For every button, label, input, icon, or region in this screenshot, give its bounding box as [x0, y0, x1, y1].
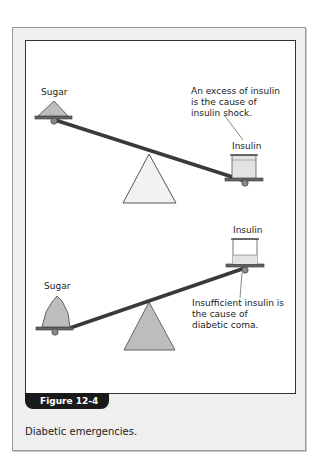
figure-number-tab: Figure 12-4: [25, 393, 109, 409]
sugar-pile-icon: [36, 296, 73, 335]
diabetic-coma-note: Insufficient insulin is the cause of dia…: [192, 298, 284, 331]
bottom-seesaw: [36, 239, 264, 350]
fulcrum-top: [123, 154, 176, 203]
insulin-label-bottom: Insulin: [233, 225, 262, 236]
sugar-label-top: Sugar: [41, 87, 67, 98]
fulcrum-bottom: [124, 302, 175, 350]
insulin-beaker-icon: [226, 239, 264, 273]
figure-caption: Diabetic emergencies.: [25, 426, 137, 437]
insulin-beaker-icon: [225, 155, 263, 186]
insulin-label-top: Insulin: [232, 141, 261, 152]
callout-line-bottom: [240, 273, 242, 298]
insulin-shock-note: An excess of insulin is the cause of ins…: [191, 86, 281, 119]
sugar-pile-icon: [35, 101, 72, 124]
sugar-label-bottom: Sugar: [44, 281, 70, 292]
callout-line-top: [225, 116, 243, 140]
